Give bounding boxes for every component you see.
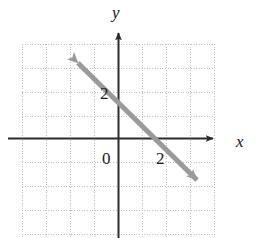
y-axis-label: y (112, 4, 120, 21)
axes (8, 33, 213, 238)
x-axis-tick-label-2: 2 (156, 150, 165, 167)
origin-label: 0 (102, 150, 111, 167)
plotted-line (78, 63, 197, 180)
x-axis-label: x (236, 133, 244, 150)
coordinate-plane (0, 0, 256, 238)
graph-screenshot: y x 0 2 2 (0, 0, 256, 238)
y-axis-tick-label-2: 2 (100, 85, 109, 102)
